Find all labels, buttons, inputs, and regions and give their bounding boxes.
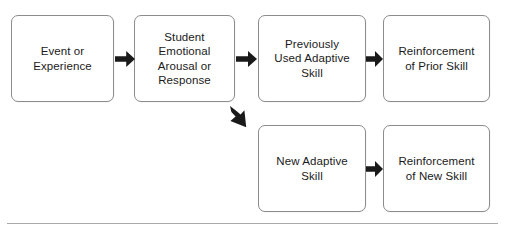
node-reinforcement-of-new-skill: Reinforcement of New Skill [383,125,490,212]
node-label: Reinforcement of Prior Skill [398,44,474,73]
node-label: Reinforcement of New Skill [398,154,474,183]
node-student-emotional-arousal-or-response: Student Emotional Arousal or Response [134,15,235,102]
horizontal-divider [7,223,498,224]
node-label: Event or Experience [33,44,92,73]
node-label: Previously Used Adaptive Skill [274,37,349,81]
arrow-right-icon-event-to-student [115,51,135,67]
arrow-right-icon-previously-used-to-reinforcement-prior [366,51,383,67]
node-label: Student Emotional Arousal or Response [158,30,211,88]
arrow-right-icon-new-adaptive-to-reinforcement-new [366,161,383,177]
node-label: New Adaptive Skill [276,154,348,183]
arrow-right-icon-student-to-previously-used [236,51,257,67]
arrow-down-right-icon-student-to-new-adaptive [228,106,250,130]
node-event-or-experience: Event or Experience [11,15,114,102]
node-new-adaptive-skill: New Adaptive Skill [258,125,366,212]
node-reinforcement-of-prior-skill: Reinforcement of Prior Skill [383,15,490,102]
flowchart-diagram: Event or Experience Student Emotional Ar… [0,0,505,234]
node-previously-used-adaptive-skill: Previously Used Adaptive Skill [258,15,366,102]
